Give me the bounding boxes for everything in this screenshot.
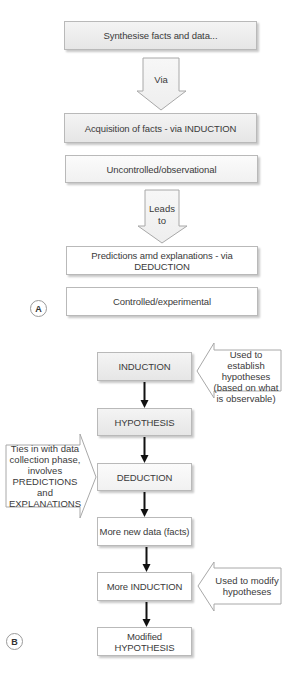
step-hypothesis: HYPOTHESIS: [97, 408, 192, 436]
step-more-new-data: More new data (facts): [97, 517, 192, 546]
step-deduction: DEDUCTION: [97, 463, 192, 491]
step-induction: INDUCTION: [97, 352, 192, 381]
box-synthesise: Synthesise facts and data...: [64, 21, 257, 50]
step-modified-hypothesis: Modified HYPOTHESIS: [97, 627, 192, 656]
step-more-induction: More INDUCTION: [97, 572, 192, 601]
box-acquisition: Acquisition of facts - via INDUCTION: [64, 113, 257, 143]
via-arrow-label: Via: [143, 74, 179, 86]
box-uncontrolled: Uncontrolled/observational: [65, 155, 258, 183]
callout-ties-in-text: Ties in with data collection phase, invo…: [7, 443, 83, 509]
leads-to-arrow-label: Leads to: [144, 203, 180, 227]
box-predictions: Predictions amd explanations - via DEDUC…: [66, 246, 258, 275]
panel-a-label: A: [30, 300, 47, 317]
box-controlled-label: Controlled/experimental: [113, 296, 211, 307]
panel-b-label: B: [6, 633, 23, 650]
box-predictions-label: Predictions amd explanations - via DEDUC…: [67, 250, 257, 272]
box-uncontrolled-label: Uncontrolled/observational: [107, 164, 217, 175]
box-acquisition-label: Acquisition of facts - via INDUCTION: [85, 123, 237, 134]
callout-modify-text: Used to modify hypotheses: [212, 575, 282, 597]
box-controlled: Controlled/experimental: [66, 287, 258, 316]
box-synthesise-label: Synthesise facts and data...: [104, 30, 218, 41]
callout-establish-text: Used to establish hypotheses (based on w…: [210, 349, 282, 404]
